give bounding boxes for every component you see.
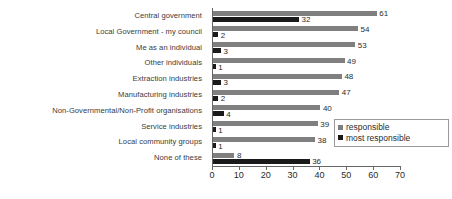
x-tick-label: 10 bbox=[234, 171, 244, 180]
chart-legend: responsible most responsible bbox=[334, 119, 449, 147]
x-tick-label: 40 bbox=[314, 171, 324, 180]
bar-value-label: 49 bbox=[345, 58, 356, 66]
category-label: Central government bbox=[0, 8, 207, 24]
legend-label: most responsible bbox=[346, 133, 410, 144]
x-tick-label: 70 bbox=[395, 171, 405, 180]
legend-swatch-icon bbox=[338, 135, 343, 140]
bar-row: 404 bbox=[213, 103, 401, 119]
bar-value-label: 48 bbox=[342, 73, 353, 81]
bar-resp bbox=[213, 26, 358, 31]
bar-value-label: 40 bbox=[320, 105, 331, 113]
bar-resp bbox=[213, 153, 234, 158]
bar-resp bbox=[213, 42, 355, 47]
x-axis-ticks: 010203040506070 bbox=[212, 166, 400, 170]
bar-row: 483 bbox=[213, 71, 401, 87]
bar-value-label: 39 bbox=[318, 121, 329, 129]
bar-row: 533 bbox=[213, 40, 401, 56]
bar-row: 542 bbox=[213, 24, 401, 40]
legend-item-most-responsible: most responsible bbox=[338, 133, 445, 144]
bar-most bbox=[213, 159, 310, 164]
bar-value-label: 47 bbox=[339, 89, 350, 97]
category-label: Manufacturing industries bbox=[0, 87, 207, 103]
bar-resp bbox=[213, 137, 315, 142]
category-label: Non-Governmental/Non-Profit organisation… bbox=[0, 103, 207, 119]
bar-value-label: 54 bbox=[358, 26, 369, 34]
bar-row: 836 bbox=[213, 150, 401, 166]
bar-value-label: 61 bbox=[377, 10, 388, 18]
x-tick-label: 20 bbox=[261, 171, 271, 180]
bar-value-label: 53 bbox=[355, 42, 366, 50]
bar-row: 472 bbox=[213, 87, 401, 103]
legend-item-responsible: responsible bbox=[338, 122, 445, 133]
bar-row: 6132 bbox=[213, 8, 401, 24]
category-label: Service industries bbox=[0, 119, 207, 135]
category-label: Extraction industries bbox=[0, 71, 207, 87]
bar-resp bbox=[213, 90, 339, 95]
bar-chart: Central government Local Government - my… bbox=[0, 0, 452, 199]
bar-row: 491 bbox=[213, 55, 401, 71]
bar-value-label: 38 bbox=[315, 137, 326, 145]
category-label: Local community groups bbox=[0, 134, 207, 150]
category-label: Other individuals bbox=[0, 55, 207, 71]
bar-resp bbox=[213, 121, 318, 126]
legend-label: responsible bbox=[346, 122, 389, 133]
category-label: Local Government - my council bbox=[0, 24, 207, 40]
bar-most bbox=[213, 80, 221, 85]
x-tick-label: 60 bbox=[368, 171, 378, 180]
bar-resp bbox=[213, 74, 342, 79]
x-tick-label: 0 bbox=[209, 171, 214, 180]
category-label: Me as an individual bbox=[0, 40, 207, 56]
x-tick-label: 50 bbox=[341, 171, 351, 180]
bar-most bbox=[213, 111, 224, 116]
category-axis-labels: Central government Local Government - my… bbox=[0, 8, 207, 166]
bar-most bbox=[213, 17, 299, 22]
bar-resp bbox=[213, 11, 377, 16]
bar-resp bbox=[213, 58, 345, 63]
category-label: None of these bbox=[0, 150, 207, 166]
bar-most bbox=[213, 48, 221, 53]
legend-swatch-icon bbox=[338, 125, 343, 130]
x-tick-label: 30 bbox=[288, 171, 298, 180]
